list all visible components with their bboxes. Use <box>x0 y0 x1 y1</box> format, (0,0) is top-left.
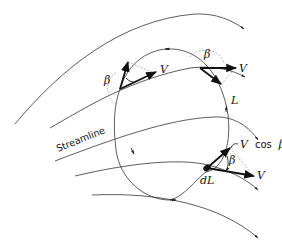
circulation-diagram: β V β V L Streamline β dL V V cos β <box>0 0 282 248</box>
vcosbeta-beta: β <box>278 138 282 151</box>
element-label-dL: dL <box>200 174 214 187</box>
streamline-5 <box>92 195 258 238</box>
vcosbeta-leader <box>231 144 238 148</box>
velocity-vector-left <box>120 72 156 89</box>
streamline-label: Streamline <box>55 124 107 154</box>
vcosbeta-label: V cos β <box>240 134 282 151</box>
beta-arc-dL <box>226 156 228 171</box>
velocity-label-left: V <box>160 63 169 76</box>
projection-dash-right <box>221 71 233 84</box>
velocity-label-right: V <box>239 62 248 75</box>
vcosbeta-v: V <box>240 138 249 151</box>
beta-arc-small-left <box>126 78 134 82</box>
beta-label-dL: β <box>228 154 235 167</box>
beta-label-right: β <box>203 48 210 61</box>
velocity-label-dL: V <box>257 169 266 182</box>
curve-arrow-right <box>226 106 227 112</box>
curve-arrow-left <box>131 148 134 154</box>
beta-label-left: β <box>103 74 110 87</box>
curve-label-L: L <box>230 94 238 107</box>
vcosbeta-cos: cos <box>255 139 272 150</box>
